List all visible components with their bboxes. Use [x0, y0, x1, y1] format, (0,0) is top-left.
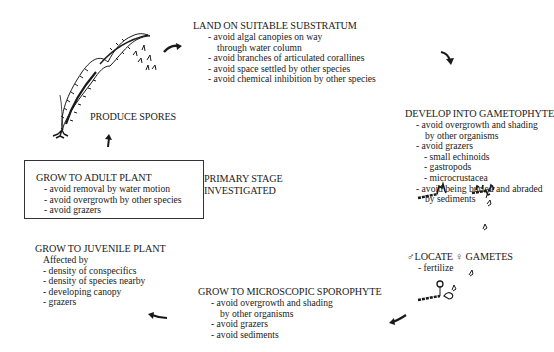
stage-item: Affected by [43, 255, 166, 266]
stage-produce-spores: PRODUCE SPORES [90, 111, 176, 123]
annotation-line: INVESTIGATED [204, 185, 283, 197]
stage-item: - microcrustacea [416, 173, 554, 184]
stage-item: - avoid chemical inhibition by other spe… [208, 74, 376, 85]
stage-item: by sediments [416, 194, 554, 205]
female-symbol-icon: ♀ [455, 251, 463, 262]
stage-item: - avoid grazers [44, 205, 182, 216]
stage-item: - avoid algal canopies on way [208, 32, 376, 43]
stage-develop-gametophyte: DEVELOP INTO GAMETOPHYTE - avoid overgro… [405, 108, 554, 205]
male-symbol-icon: ♂ [407, 251, 415, 262]
stage-land-on-substratum: LAND ON SUITABLE SUBSTRATUM - avoid alga… [193, 20, 376, 85]
stage-title-locate: LOCATE [415, 251, 453, 262]
stage-item: - avoid overgrowth and shading [211, 298, 382, 309]
annotation-line: PRIMARY STAGE [204, 173, 283, 185]
stage-item: - avoid sediments [211, 330, 382, 341]
stage-item: - avoid removal by water motion [44, 184, 182, 195]
stage-title: PRODUCE SPORES [90, 111, 176, 123]
primary-stage-annotation: PRIMARY STAGE INVESTIGATED [204, 173, 283, 197]
stage-item: - fertilize [418, 263, 513, 274]
stage-item: - avoid overgrowth and shading [416, 120, 554, 131]
stage-microscopic-sporophyte: GROW TO MICROSCOPIC SPOROPHYTE - avoid o… [198, 286, 382, 340]
stage-title-gametes: GAMETES [465, 251, 512, 262]
stage-locate-gametes: ♂LOCATE ♀ GAMETES - fertilize [407, 251, 513, 274]
stage-juvenile-plant: GROW TO JUVENILE PLANT Affected by - den… [35, 243, 166, 308]
stage-adult-plant-box: GROW TO ADULT PLANT - avoid removal by w… [24, 160, 204, 219]
stage-item: - grazers [43, 297, 166, 308]
